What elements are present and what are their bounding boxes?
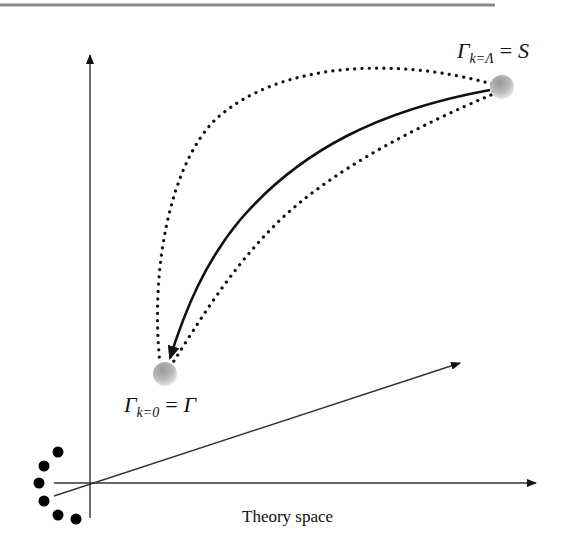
end-point-label: Γk=0=Γ: [124, 392, 196, 421]
start-point-ball: [490, 75, 514, 99]
end-subscript: k=0: [137, 405, 160, 420]
horizontal-axis-label: Theory space: [242, 507, 333, 527]
end-value: Γ: [184, 392, 197, 417]
flow-trajectory: [170, 90, 490, 358]
start-symbol: Γ: [457, 38, 470, 63]
diagram-canvas: [0, 0, 571, 559]
start-value: S: [518, 38, 529, 63]
start-point-label: Γk=Λ=S: [457, 38, 529, 67]
end-relation: =: [159, 392, 183, 417]
dotted-trajectory-lower: [172, 95, 491, 364]
theory-space-diagram: Γk=Λ=S Γk=0=Γ Theory space: [0, 0, 571, 559]
ellipsis-dots-icon: [34, 447, 82, 525]
diagonal-axis: [54, 363, 460, 496]
dotted-trajectory-upper: [157, 68, 492, 364]
start-relation: =: [494, 38, 518, 63]
end-point-ball: [153, 362, 177, 386]
start-subscript: k=Λ: [470, 51, 494, 66]
end-symbol: Γ: [124, 392, 137, 417]
